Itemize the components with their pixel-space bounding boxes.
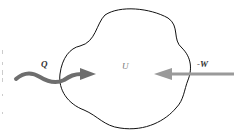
work-arrowhead: [154, 68, 172, 80]
heat-arrowhead: [80, 68, 96, 80]
margin-marks: [2, 50, 3, 114]
internal-energy-label: U: [122, 61, 129, 71]
work-label: -W: [197, 59, 208, 69]
heat-label: Q: [41, 59, 48, 69]
heat-arrow: [16, 73, 82, 82]
